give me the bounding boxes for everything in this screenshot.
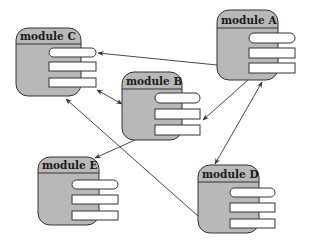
module-label: module B <box>126 75 182 87</box>
module-label: module A <box>221 14 277 26</box>
interface-slot[interactable] <box>249 48 295 58</box>
edge-c-b[interactable] <box>97 90 122 104</box>
module-a[interactable]: module A <box>217 10 295 80</box>
edge-d-a[interactable] <box>215 82 262 164</box>
interface-slot-rounded[interactable] <box>72 180 118 189</box>
module-label: module E <box>42 159 97 171</box>
edge-a-c[interactable] <box>98 53 217 65</box>
interface-slot-rounded[interactable] <box>155 93 200 103</box>
edge-a-b[interactable] <box>203 80 248 120</box>
module-e[interactable]: module E <box>38 157 118 225</box>
interface-slot[interactable] <box>155 109 200 119</box>
module-label: module D <box>202 168 259 180</box>
interface-slot[interactable] <box>72 211 118 220</box>
interface-slot[interactable] <box>155 125 200 135</box>
interface-slot-rounded[interactable] <box>230 188 275 197</box>
interface-slot[interactable] <box>72 195 118 204</box>
interface-slot-rounded[interactable] <box>49 48 96 57</box>
module-b[interactable]: module B <box>122 72 200 140</box>
module-label: module C <box>20 30 76 42</box>
diagram-canvas: module Cmodule Amodule Bmodule Emodule D <box>0 0 310 244</box>
interface-slot[interactable] <box>249 63 295 73</box>
interface-slot[interactable] <box>230 203 275 212</box>
module-d[interactable]: module D <box>198 165 275 233</box>
interface-slot[interactable] <box>49 78 96 87</box>
interface-slot-rounded[interactable] <box>249 33 295 43</box>
interface-slot[interactable] <box>230 219 275 228</box>
module-c[interactable]: module C <box>16 28 96 96</box>
modules-layer: module Cmodule Amodule Bmodule Emodule D <box>16 10 295 233</box>
interface-slot[interactable] <box>49 62 96 71</box>
